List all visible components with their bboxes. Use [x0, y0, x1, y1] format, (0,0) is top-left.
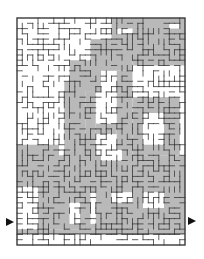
- exit-arrow-icon: [188, 217, 196, 225]
- maze-board: [0, 0, 204, 259]
- entry-arrow-icon: [6, 218, 14, 226]
- maze-puzzle: [0, 0, 204, 259]
